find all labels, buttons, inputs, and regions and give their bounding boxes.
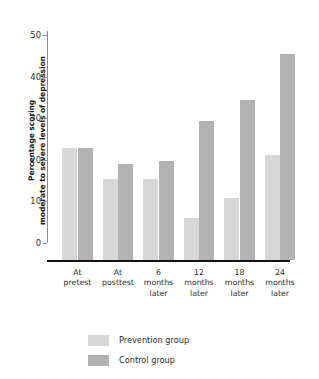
- legend-swatch: [88, 355, 109, 366]
- x-axis-label-line: later: [217, 289, 263, 299]
- x-axis-label-line: At: [55, 268, 101, 278]
- x-axis-label: 12monthslater: [176, 268, 222, 299]
- bar-control: [78, 148, 93, 261]
- x-axis-label-line: 24: [257, 268, 303, 278]
- bar-prevention: [265, 155, 280, 261]
- bar-control: [199, 121, 214, 261]
- x-axis-label-line: months: [257, 278, 303, 288]
- y-axis-title-line-2: moderate to severe levels of depression: [37, 26, 48, 256]
- x-axis-label-line: At: [95, 268, 141, 278]
- y-axis-title-line-1: Percentage scoring: [27, 26, 38, 256]
- x-axis-label-line: later: [257, 289, 303, 299]
- x-axis-label-line: 6: [136, 268, 182, 278]
- x-axis-label-line: months: [136, 278, 182, 288]
- bar-control: [118, 164, 133, 260]
- legend-item: Control group: [88, 353, 189, 367]
- bar-control: [280, 54, 295, 260]
- y-axis-tick-label: 40: [30, 72, 41, 82]
- bar-prevention: [62, 148, 77, 261]
- x-axis-label-line: months: [217, 278, 263, 288]
- bar-group: [224, 29, 255, 260]
- x-axis-label: 18monthslater: [217, 268, 263, 299]
- bar-group: [103, 29, 134, 260]
- bar-group: [265, 29, 296, 260]
- bar-control: [159, 161, 174, 260]
- x-axis-labels: AtpretestAtposttest6monthslater12monthsl…: [47, 268, 290, 312]
- y-axis-tick-label: 20: [30, 155, 41, 165]
- x-axis-label-line: posttest: [95, 278, 141, 288]
- bar-control: [240, 100, 255, 261]
- legend-item: Prevention group: [88, 333, 189, 347]
- x-axis-label-line: later: [136, 289, 182, 299]
- x-axis-label-line: 18: [217, 268, 263, 278]
- legend-label: Control group: [119, 355, 175, 365]
- bar-prevention: [143, 179, 158, 260]
- bar-group: [184, 29, 215, 260]
- y-axis-tick-label: 30: [30, 113, 41, 123]
- x-axis-label-line: pretest: [55, 278, 101, 288]
- bar-group: [62, 29, 93, 260]
- x-axis-label-line: 12: [176, 268, 222, 278]
- legend-label: Prevention group: [119, 335, 189, 345]
- y-axis-tick-label: 0: [36, 238, 41, 248]
- bar-prevention: [184, 218, 199, 261]
- bar-chart-figure: Percentage scoring moderate to severe le…: [0, 0, 319, 379]
- x-axis-label: 24monthslater: [257, 268, 303, 299]
- y-axis-tick-label: 10: [30, 196, 41, 206]
- x-axis-label: Atposttest: [95, 268, 141, 289]
- bar-prevention: [103, 179, 118, 260]
- bar-group: [143, 29, 174, 260]
- x-axis-baseline: [47, 260, 290, 262]
- plot-area: 01020304050: [47, 31, 290, 262]
- bar-prevention: [224, 198, 239, 261]
- y-axis-tick-label: 50: [30, 30, 41, 40]
- x-axis-label-line: later: [176, 289, 222, 299]
- x-axis-label-line: months: [176, 278, 222, 288]
- x-axis-label: 6monthslater: [136, 268, 182, 299]
- legend-swatch: [88, 335, 109, 346]
- y-axis-title: Percentage scoring moderate to severe le…: [27, 26, 48, 256]
- chart-legend: Prevention groupControl group: [88, 333, 189, 373]
- x-axis-label: Atpretest: [55, 268, 101, 289]
- bar-series-container: [47, 31, 290, 262]
